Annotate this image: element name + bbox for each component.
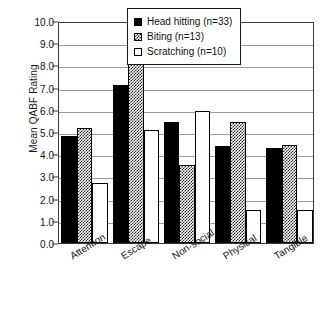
bar[interactable] (77, 128, 93, 243)
y-axis-tick-label: 5.0 (8, 128, 54, 139)
legend-label: Biting (n=13) (147, 31, 204, 42)
y-axis-tick-label: 7.0 (8, 83, 54, 94)
y-axis-tick-label: 0.0 (8, 239, 54, 250)
y-axis-tick-label: 8.0 (8, 61, 54, 72)
bar-group (59, 23, 110, 243)
y-axis-tick-label: 2.0 (8, 194, 54, 205)
bar[interactable] (144, 130, 160, 243)
bar[interactable] (230, 122, 246, 243)
chart-legend: Head hitting (n=33)Biting (n=13)Scratchi… (127, 8, 241, 65)
y-axis-tick-label: 4.0 (8, 150, 54, 161)
bar[interactable] (164, 122, 180, 243)
legend-item[interactable]: Scratching (n=10) (134, 44, 232, 59)
y-axis-tick-label: 1.0 (8, 216, 54, 227)
bar[interactable] (128, 40, 144, 243)
legend-item[interactable]: Biting (n=13) (134, 29, 232, 44)
bar[interactable] (215, 146, 231, 243)
chart-figure: Mean QABF Rating 10.09.08.07.06.05.04.03… (0, 0, 334, 310)
bar[interactable] (266, 148, 282, 243)
legend-swatch-icon (134, 18, 142, 26)
legend-swatch-icon (134, 33, 142, 41)
legend-item[interactable]: Head hitting (n=33) (134, 14, 232, 29)
y-axis-tick-label: 10.0 (8, 17, 54, 28)
bar[interactable] (195, 111, 211, 243)
bar[interactable] (113, 85, 129, 243)
bar[interactable] (61, 136, 77, 243)
legend-label: Scratching (n=10) (147, 46, 226, 57)
y-axis-tick-label: 9.0 (8, 39, 54, 50)
bar[interactable] (282, 145, 298, 243)
bar-group (264, 23, 315, 243)
legend-swatch-icon (134, 48, 142, 56)
bar[interactable] (179, 165, 195, 243)
y-axis-tick-label: 3.0 (8, 172, 54, 183)
y-axis-tick-label: 6.0 (8, 105, 54, 116)
legend-label: Head hitting (n=33) (147, 16, 232, 27)
